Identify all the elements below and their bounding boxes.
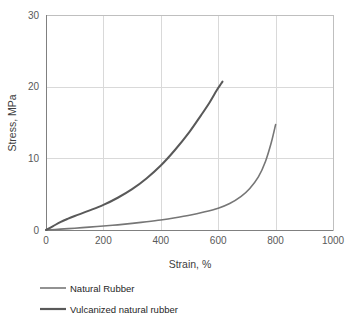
- y-axis-title: Stress, MPa: [6, 94, 18, 151]
- x-tick-label: 800: [267, 235, 284, 246]
- x-tick-label: 0: [43, 235, 49, 246]
- y-tick-label: 10: [28, 153, 40, 164]
- y-tick-label: 30: [28, 10, 40, 21]
- legend-label-0: Natural Rubber: [70, 283, 134, 294]
- x-axis-title: Strain, %: [169, 258, 212, 270]
- x-tick-label: 1000: [322, 235, 345, 246]
- chart-canvas: 02004006008001000 0102030 Strain, % Stre…: [0, 0, 356, 328]
- x-tick-label: 600: [210, 235, 227, 246]
- chart-background: [0, 0, 356, 328]
- x-tick-label: 400: [152, 235, 169, 246]
- y-tick-label: 20: [28, 81, 40, 92]
- stress-strain-chart: 02004006008001000 0102030 Strain, % Stre…: [0, 0, 356, 328]
- legend-label-1: Vulcanized natural rubber: [70, 304, 178, 315]
- y-tick-label: 0: [33, 225, 39, 236]
- x-tick-label: 200: [95, 235, 112, 246]
